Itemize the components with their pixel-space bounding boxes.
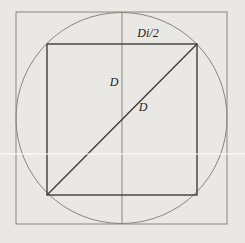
label-vertical-diameter: D bbox=[109, 75, 119, 89]
label-diagonal-diameter: D bbox=[138, 100, 148, 114]
label-half-side: Di/2 bbox=[136, 26, 158, 40]
geometry-figure: Di/2 D D bbox=[0, 0, 245, 243]
geometry-figure-page: Di/2 D D bbox=[0, 0, 245, 243]
